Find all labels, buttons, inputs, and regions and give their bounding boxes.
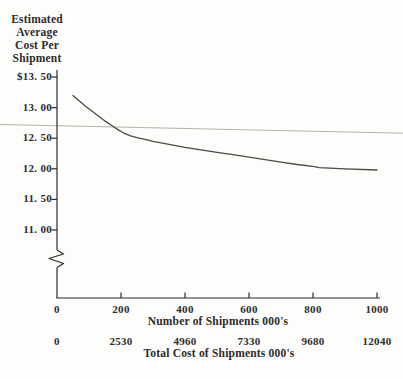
y-axis-title-line: Shipment [6, 52, 68, 65]
x-axis-label-total-cost: Total Cost of Shipments 000's [89, 347, 349, 359]
shipments-tick-label: 800 [291, 303, 335, 315]
y-axis-title-line: Estimated [6, 13, 68, 26]
shipments-tick-label: 1000 [355, 303, 399, 315]
y-tick-label: 12. 00 [0, 162, 52, 174]
y-tick-label: 13. 00 [0, 101, 52, 113]
y-tick-label: 11. 00 [0, 223, 52, 235]
total-cost-tick-label: 12040 [355, 335, 399, 347]
y-axis-break-icon [49, 250, 64, 268]
reference-line [0, 125, 403, 134]
shipments-tick-label: 200 [99, 303, 143, 315]
y-axis-title: Estimated Average Cost Per Shipment [6, 13, 68, 65]
shipments-tick-label: 400 [163, 303, 207, 315]
shipments-tick-label: 600 [227, 303, 271, 315]
total-cost-tick-label: 2530 [99, 335, 143, 347]
axis-tick-marks [52, 77, 378, 298]
y-tick-label: 12. 50 [0, 131, 52, 143]
y-tick-label: 11. 50 [0, 192, 52, 204]
y-axis-title-line: Cost Per [6, 39, 68, 52]
x-axis-label-shipments: Number of Shipments 000's [88, 315, 348, 327]
y-axis-title-line: Average [6, 26, 68, 39]
shipments-tick-label: 0 [35, 303, 79, 315]
total-cost-tick-label: 7330 [227, 335, 271, 347]
cost-curve [73, 95, 377, 170]
total-cost-tick-label: 4960 [163, 335, 207, 347]
total-cost-tick-label: 0 [35, 335, 79, 347]
total-cost-tick-label: 9680 [291, 335, 335, 347]
y-tick-label: $13. 50 [0, 70, 52, 82]
cost-per-shipment-chart: Estimated Average Cost Per Shipment $13.… [0, 0, 403, 379]
